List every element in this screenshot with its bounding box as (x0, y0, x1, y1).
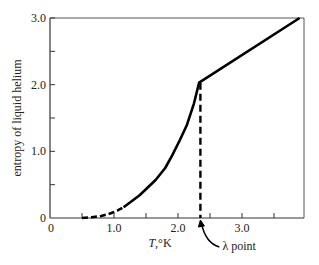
lambda-arrow (201, 223, 219, 247)
dashed-extrapolation-line (82, 207, 124, 218)
tick-labels: 01.02.03.001.02.03.0 (31, 11, 250, 235)
x-axis-label-unit: ,°K (155, 236, 172, 250)
x-tick-label: 0 (48, 221, 54, 235)
lambda-arrowhead-icon (198, 220, 204, 227)
x-tick-label: 1.0 (107, 221, 122, 235)
y-tick-label: 1.0 (31, 144, 46, 158)
x-tick-label: 2.0 (171, 221, 186, 235)
series (82, 18, 300, 218)
lambda-point-label: λ point (222, 239, 256, 253)
entropy-chart: 01.02.03.001.02.03.0 λ point entropy of … (0, 0, 319, 265)
ticks (50, 18, 274, 218)
entropy-curve (124, 18, 300, 207)
x-axis-label: T,°K (148, 236, 171, 250)
x-tick-label: 3.0 (235, 221, 250, 235)
y-tick-label: 3.0 (31, 11, 46, 25)
y-axis-label: entropy of liquid helium (10, 59, 24, 177)
y-tick-label: 2.0 (31, 78, 46, 92)
axes (50, 18, 304, 218)
y-tick-label: 0 (40, 211, 46, 225)
